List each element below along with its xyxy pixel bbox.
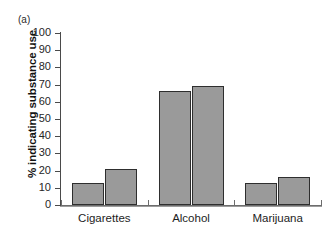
- y-axis-tick-label: 80: [11, 61, 51, 72]
- x-axis-tick: [321, 200, 322, 206]
- x-axis-group-label-alcohol: Alcohol: [148, 212, 235, 225]
- plot-area: [61, 33, 321, 205]
- bar-alcohol-series-1: [159, 91, 191, 205]
- y-axis-tick-label: 20: [11, 165, 51, 176]
- y-axis-tick-label: 60: [11, 96, 51, 107]
- figure-panel-a: (a) % indicating substance use 010203040…: [0, 0, 336, 245]
- x-axis-group-label-cigarettes: Cigarettes: [61, 212, 148, 225]
- y-axis-tick-label: 100: [11, 27, 51, 38]
- x-axis-group-label-marijuana: Marijuana: [234, 212, 321, 225]
- y-axis-tick-label: 90: [11, 44, 51, 55]
- x-axis-line: [60, 205, 322, 207]
- y-axis-tick-label: 10: [11, 182, 51, 193]
- y-axis-tick-label: 50: [11, 113, 51, 124]
- bar-marijuana-series-1: [245, 183, 277, 205]
- bar-marijuana-series-2: [278, 177, 310, 205]
- y-axis-tick-label: 30: [11, 147, 51, 158]
- y-axis-tick-label: 0: [11, 199, 51, 210]
- bar-alcohol-series-2: [192, 86, 224, 205]
- bar-cigarettes-series-2: [105, 169, 137, 205]
- y-axis-tick-label: 70: [11, 79, 51, 90]
- y-axis-tick-label: 40: [11, 130, 51, 141]
- bar-cigarettes-series-1: [72, 183, 104, 205]
